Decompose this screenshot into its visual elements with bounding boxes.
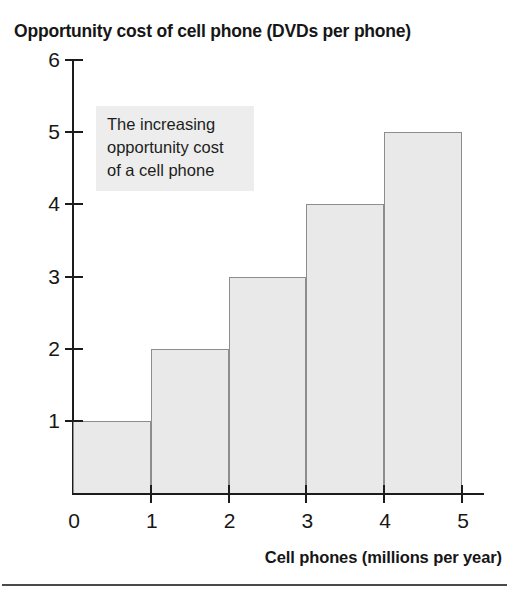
bar-4 (306, 204, 384, 493)
x-tick-2 (228, 485, 230, 503)
y-tick-6 (65, 59, 83, 61)
y-tick-2 (65, 348, 83, 350)
x-tick-label-3: 3 (290, 510, 324, 531)
y-tick-label-2: 2 (28, 338, 60, 359)
x-tick-label-4: 4 (368, 510, 402, 531)
x-axis-line (72, 493, 484, 495)
y-tick-label-6: 6 (28, 49, 60, 70)
annotation-line-2: opportunity cost (107, 136, 245, 159)
x-tick-4 (383, 485, 385, 503)
y-tick-4 (65, 203, 83, 205)
y-tick-label-3: 3 (28, 266, 60, 287)
chart-title: Opportunity cost of cell phone (DVDs per… (14, 20, 504, 42)
x-tick-label-0: 0 (57, 510, 91, 531)
x-tick-label-5: 5 (446, 510, 480, 531)
y-tick-5 (65, 131, 83, 133)
y-tick-label-5: 5 (28, 121, 60, 142)
bar-2 (151, 349, 229, 493)
y-tick-3 (65, 276, 83, 278)
y-tick-1 (65, 420, 83, 422)
x-axis-label: Cell phones (millions per year) (0, 548, 502, 567)
bar-1 (73, 421, 151, 493)
x-tick-3 (305, 485, 307, 503)
y-tick-label-4: 4 (28, 193, 60, 214)
bar-5 (384, 132, 462, 493)
y-tick-label-1: 1 (28, 410, 60, 431)
x-tick-1 (150, 485, 152, 503)
footer-divider (2, 584, 507, 586)
x-tick-label-2: 2 (213, 510, 247, 531)
annotation-note: The increasing opportunity cost of a cel… (96, 106, 254, 191)
figure-container: Opportunity cost of cell phone (DVDs per… (0, 0, 509, 592)
annotation-line-3: of a cell phone (107, 159, 245, 182)
x-tick-label-1: 1 (135, 510, 169, 531)
bar-3 (229, 277, 307, 494)
annotation-line-1: The increasing (107, 113, 245, 136)
x-tick-5 (461, 485, 463, 503)
